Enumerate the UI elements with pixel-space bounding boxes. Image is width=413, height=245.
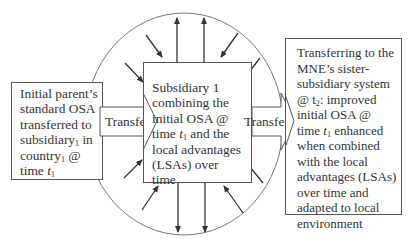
sister-subsidiary-text: Transferring to the MNE’s sister- subsid… — [297, 45, 396, 231]
diagram-canvas: Initial parent’s standard OSA transferre… — [0, 0, 413, 245]
